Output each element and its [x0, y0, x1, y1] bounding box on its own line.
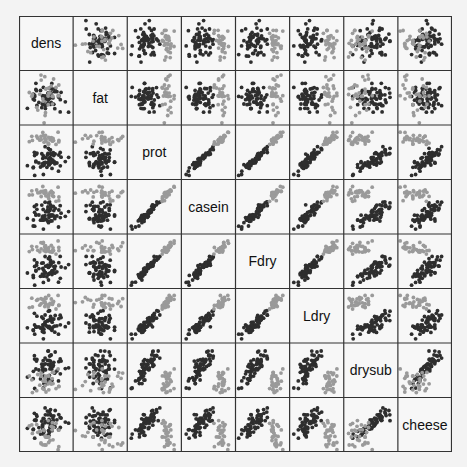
- scatter-panel-fat-vs-prot: [129, 73, 176, 125]
- diagonal-label-panel-dens: dens: [31, 35, 61, 51]
- scatter-panel-prot-vs-Fdry: [237, 130, 285, 177]
- variable-label: drysub: [350, 362, 392, 378]
- scatter-panel-cheese-vs-fat: [73, 406, 124, 452]
- diagonal-label-panel-Fdry: Fdry: [249, 253, 277, 269]
- scatter-panel-casein-vs-fat: [73, 185, 124, 231]
- scatter-panel-Fdry-vs-prot: [129, 239, 176, 287]
- scatterplot-matrix: densfatprotcaseinFdryLdrydrysubcheese: [19, 16, 452, 452]
- scatter-panel-drysub-vs-Ldry: [292, 349, 339, 394]
- scatter-panel-drysub-vs-dens: [26, 349, 71, 394]
- scatter-panel-Fdry-vs-dens: [26, 239, 71, 287]
- scatter-panel-Ldry-vs-drysub: [347, 294, 392, 341]
- scatter-panel-drysub-vs-Fdry: [237, 349, 285, 394]
- variable-label: Fdry: [249, 253, 277, 269]
- variable-label: cheese: [402, 417, 447, 433]
- scatter-panel-Fdry-vs-drysub: [347, 239, 392, 287]
- scatter-panel-Ldry-vs-fat: [73, 294, 124, 341]
- scatter-panel-casein-vs-prot: [129, 185, 176, 231]
- scatter-panel-dens-vs-Fdry: [237, 19, 285, 64]
- scatter-panel-dens-vs-fat: [73, 19, 124, 64]
- scatter-panel-prot-vs-fat: [73, 130, 124, 177]
- diagonal-label-panel-drysub: drysub: [350, 362, 392, 378]
- scatter-panel-prot-vs-drysub: [347, 130, 392, 177]
- scatter-panel-Fdry-vs-fat: [73, 239, 124, 287]
- scatter-panel-dens-vs-cheese: [398, 19, 443, 64]
- scatter-panel-cheese-vs-prot: [129, 406, 176, 452]
- diagonal-label-panel-fat: fat: [92, 90, 108, 106]
- scatter-panel-Ldry-vs-Fdry: [237, 294, 285, 341]
- diagonal-label-panel-prot: prot: [142, 144, 166, 160]
- scatter-panel-fat-vs-cheese: [398, 73, 443, 125]
- diagonal-label-panel-Ldry: Ldry: [303, 308, 330, 324]
- diagonal-label-panel-casein: casein: [188, 199, 228, 215]
- scatter-panel-Fdry-vs-cheese: [398, 239, 443, 287]
- scatter-panel-casein-vs-drysub: [347, 185, 392, 231]
- scatter-panel-dens-vs-Ldry: [292, 19, 339, 64]
- scatter-panel-dens-vs-casein: [184, 19, 230, 64]
- scatter-panel-Fdry-vs-casein: [184, 239, 230, 287]
- scatter-panel-Ldry-vs-casein: [184, 294, 230, 341]
- variable-label: fat: [92, 90, 108, 106]
- scatter-panel-casein-vs-Ldry: [292, 185, 339, 231]
- scatter-panel-drysub-vs-fat: [73, 349, 124, 394]
- scatter-panel-casein-vs-dens: [26, 185, 71, 231]
- scatter-panel-fat-vs-drysub: [347, 73, 392, 125]
- scatter-panel-cheese-vs-Fdry: [237, 406, 285, 452]
- variable-label: dens: [31, 35, 61, 51]
- scatter-panel-casein-vs-Fdry: [237, 185, 285, 231]
- scatter-panel-cheese-vs-drysub: [347, 406, 392, 452]
- scatter-panel-cheese-vs-dens: [26, 406, 71, 452]
- scatter-panel-dens-vs-drysub: [347, 19, 392, 64]
- scatter-panel-drysub-vs-cheese: [398, 349, 443, 394]
- scatter-panel-drysub-vs-prot: [129, 349, 176, 394]
- scatter-panel-prot-vs-casein: [184, 130, 230, 177]
- scatter-panel-fat-vs-Fdry: [237, 73, 285, 125]
- scatter-panel-Ldry-vs-cheese: [398, 294, 443, 341]
- scatter-panel-prot-vs-Ldry: [292, 130, 339, 177]
- diagonal-label-panel-cheese: cheese: [402, 417, 447, 433]
- scatter-panel-Ldry-vs-dens: [26, 294, 71, 341]
- variable-label: prot: [142, 144, 166, 160]
- scatter-panel-fat-vs-dens: [26, 73, 71, 125]
- scatter-panel-fat-vs-Ldry: [292, 73, 339, 125]
- scatter-panel-fat-vs-casein: [184, 73, 230, 125]
- scatter-panel-cheese-vs-casein: [184, 406, 230, 452]
- scatter-panel-cheese-vs-Ldry: [292, 406, 339, 452]
- matrix-svg: densfatprotcaseinFdryLdrydrysubcheese: [19, 16, 452, 452]
- scatter-panel-casein-vs-cheese: [398, 185, 443, 231]
- scatter-panel-Ldry-vs-prot: [129, 294, 176, 341]
- variable-label: Ldry: [303, 308, 330, 324]
- scatter-panel-prot-vs-dens: [26, 130, 71, 177]
- variable-label: casein: [188, 199, 228, 215]
- scatter-panel-prot-vs-cheese: [398, 130, 443, 177]
- scatter-panel-drysub-vs-casein: [184, 349, 230, 394]
- scatter-panel-dens-vs-prot: [129, 19, 176, 64]
- scatter-panel-Fdry-vs-Ldry: [292, 239, 339, 287]
